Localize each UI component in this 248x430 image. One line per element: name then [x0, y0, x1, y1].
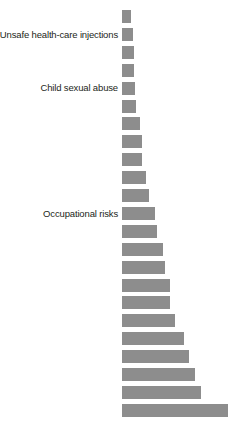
- bar-row: [0, 243, 248, 256]
- bar-row: [0, 117, 248, 130]
- bar-row: [0, 314, 248, 327]
- bar-row: Child sexual abuse: [0, 82, 248, 95]
- bar-rect: [122, 314, 175, 327]
- bar-row: [0, 386, 248, 399]
- bar-rect: [122, 207, 155, 220]
- bar-row: [0, 350, 248, 363]
- bar-rect: [122, 135, 142, 148]
- bar-row: [0, 10, 248, 23]
- bar-row: [0, 100, 248, 113]
- bar-rect: [122, 225, 157, 238]
- bar-rect: [122, 350, 189, 363]
- bar-rect: [122, 10, 131, 23]
- chart-plot-area: Unsafe health-care injectionsChild sexua…: [0, 0, 248, 430]
- bar-category-label: Unsafe health-care injections: [0, 30, 118, 40]
- bar-rect: [122, 332, 184, 345]
- bar-rect: [122, 117, 140, 130]
- bar-chart: Unsafe health-care injectionsChild sexua…: [0, 0, 248, 430]
- bar-row: [0, 153, 248, 166]
- bar-row: [0, 261, 248, 274]
- bar-rect: [122, 368, 195, 381]
- bar-row: [0, 404, 248, 417]
- bar-rect: [122, 261, 165, 274]
- bar-rect: [122, 386, 201, 399]
- bar-row: [0, 332, 248, 345]
- bar-rect: [122, 46, 134, 59]
- bar-category-label: Child sexual abuse: [40, 83, 118, 93]
- bar-rect: [122, 279, 170, 292]
- bar-rect: [122, 171, 146, 184]
- bar-row: [0, 225, 248, 238]
- bar-row: [0, 279, 248, 292]
- bar-rect: [122, 153, 142, 166]
- bar-rect: [122, 100, 136, 113]
- bar-row: [0, 46, 248, 59]
- bar-rect: [122, 243, 163, 256]
- bar-rect: [122, 189, 149, 202]
- bar-category-label: Occupational risks: [43, 209, 118, 219]
- bar-rect: [122, 64, 134, 77]
- bar-row: Occupational risks: [0, 207, 248, 220]
- bar-rect: [122, 28, 133, 41]
- bar-row: [0, 296, 248, 309]
- bar-row: Unsafe health-care injections: [0, 28, 248, 41]
- bar-row: [0, 171, 248, 184]
- bar-row: [0, 135, 248, 148]
- bar-rect: [122, 404, 228, 417]
- bar-row: [0, 189, 248, 202]
- bar-rect: [122, 82, 135, 95]
- bar-row: [0, 64, 248, 77]
- bar-row: [0, 368, 248, 381]
- bar-rect: [122, 296, 170, 309]
